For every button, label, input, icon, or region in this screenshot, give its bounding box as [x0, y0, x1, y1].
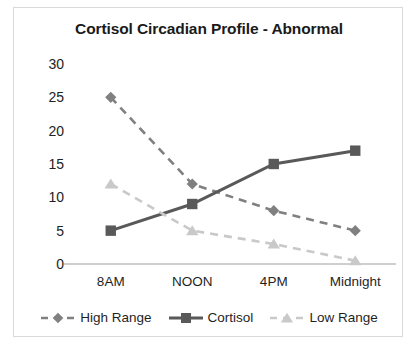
y-axis-tick-label: 30 — [24, 57, 64, 71]
y-axis-tick-label: 5 — [24, 224, 64, 238]
series-marker — [269, 159, 279, 169]
x-axis-tick-label: Midnight — [330, 275, 381, 289]
series-marker — [268, 205, 279, 216]
screenshot-root: Cortisol Circadian Profile - Abnormal 05… — [0, 0, 416, 347]
series-marker — [187, 199, 197, 209]
y-axis-tick-label: 0 — [24, 257, 64, 271]
series-line — [111, 184, 356, 261]
chart-series-high-range — [105, 92, 361, 237]
legend-key-triangle-icon — [269, 311, 305, 325]
legend-label: Low Range — [309, 311, 377, 325]
series-marker — [350, 225, 361, 236]
series-marker — [350, 145, 360, 155]
legend-key-square-icon — [168, 311, 204, 325]
series-marker — [106, 225, 116, 235]
chart-legend: High RangeCortisolLow Range — [14, 305, 404, 331]
legend-item-cortisol[interactable]: Cortisol — [168, 311, 254, 325]
series-line — [111, 151, 356, 231]
x-axis-tick-label: 4PM — [260, 275, 288, 289]
y-axis-tick-label: 15 — [24, 157, 64, 171]
y-axis-tick-label: 20 — [24, 124, 64, 138]
y-axis-tick-label: 25 — [24, 90, 64, 104]
legend-label: High Range — [80, 311, 151, 325]
y-axis-tick-label: 10 — [24, 190, 64, 204]
legend-item-high-range[interactable]: High Range — [40, 311, 151, 325]
series-marker — [105, 179, 117, 189]
series-line — [111, 97, 356, 230]
x-axis-tick-labels: 8AMNOON4PMMidnight — [14, 271, 404, 295]
x-axis-tick-label: 8AM — [97, 275, 125, 289]
legend-item-low-range[interactable]: Low Range — [269, 311, 377, 325]
x-axis-tick-label: NOON — [172, 275, 213, 289]
chart-frame: Cortisol Circadian Profile - Abnormal 05… — [13, 7, 403, 337]
legend-label: Cortisol — [208, 311, 254, 325]
legend-key-diamond-icon — [40, 311, 76, 325]
